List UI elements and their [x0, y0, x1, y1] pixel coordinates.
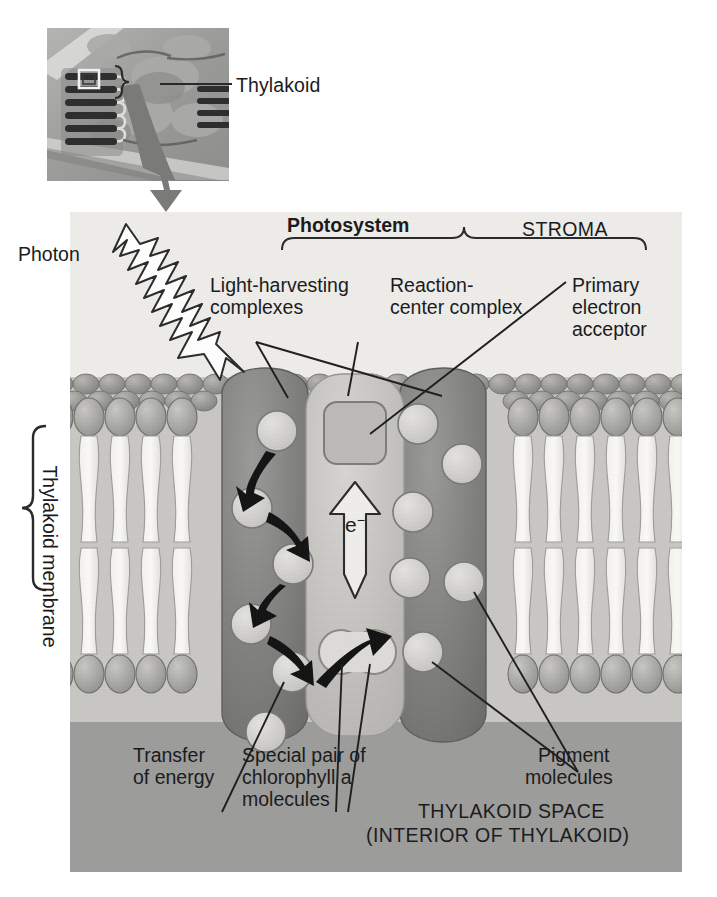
primary-acceptor-label-line2: electron — [572, 296, 641, 319]
phospholipid-tail — [606, 436, 625, 542]
phospholipid-tail — [79, 436, 98, 542]
photosystem-assembly: e− — [222, 368, 486, 752]
phospholipid-head — [539, 655, 569, 693]
phospholipid-tail — [637, 548, 656, 654]
phospholipid-tail — [141, 436, 160, 542]
phospholipid-tail — [668, 436, 682, 542]
thylakoid-space-label-line1: THYLAKOID SPACE — [418, 800, 605, 823]
special-pair-label-line3: molecules — [242, 788, 330, 811]
figure-canvas: Thylakoid Thylakoid membrane — [0, 0, 717, 897]
phospholipid-tail — [637, 436, 656, 542]
light-harvesting-label-line1: Light-harvesting — [210, 274, 349, 297]
phospholipid-head — [136, 398, 166, 436]
reaction-center-label-line1: Reaction- — [390, 274, 473, 297]
phospholipid-head — [508, 655, 538, 693]
phospholipid-tail — [575, 436, 594, 542]
transfer-energy-label-line1: Transfer — [133, 744, 205, 767]
phospholipid-head — [105, 655, 135, 693]
micrograph-image — [47, 28, 229, 181]
transfer-energy-label-line2: of energy — [133, 766, 214, 789]
pigment-molecule — [390, 558, 430, 598]
phospholipid-head — [663, 655, 682, 693]
phospholipid-head — [539, 398, 569, 436]
inset-thylakoid-label: Thylakoid — [236, 74, 320, 97]
pigment-molecule — [257, 411, 297, 451]
primary-acceptor-label-line3: acceptor — [572, 318, 647, 341]
phospholipid-tail — [544, 436, 563, 542]
thylakoid-space-label-line2: (INTERIOR OF THYLAKOID) — [366, 824, 629, 847]
special-pair-label-line2: chlorophyll a — [242, 766, 351, 789]
special-pair-label-line1: Special pair of — [242, 744, 366, 767]
photon-label: Photon — [18, 243, 80, 266]
phospholipid-head — [70, 655, 73, 693]
thylakoid-membrane-diagram: e− — [70, 212, 682, 872]
phospholipid-tail — [544, 548, 563, 654]
phospholipid-head — [601, 655, 631, 693]
highlight-square-icon — [79, 70, 99, 88]
stroma-label: STROMA — [522, 218, 608, 241]
thylakoid-brace-icon — [115, 66, 129, 98]
pigment-molecule — [393, 492, 433, 532]
phospholipid-tail — [668, 548, 682, 654]
phospholipid-head — [570, 655, 600, 693]
light-harvesting-label-line2: complexes — [210, 296, 303, 319]
thylakoid-leader-line — [160, 83, 232, 85]
phospholipid-tail — [606, 548, 625, 654]
thylakoid-membrane-label: Thylakoid membrane — [38, 452, 61, 662]
pigment-label-line2: molecules — [525, 766, 613, 789]
photosystem-label: Photosystem — [287, 214, 409, 237]
phospholipid-tail — [513, 436, 532, 542]
pigment-label-line1: Pigment — [538, 744, 610, 767]
phospholipid-head — [167, 398, 197, 436]
phospholipid-head — [570, 398, 600, 436]
primary-acceptor-label-line1: Primary — [572, 274, 639, 297]
pigment-molecule — [444, 562, 484, 602]
phospholipid-tail — [141, 548, 160, 654]
phospholipid-tail — [110, 436, 129, 542]
phospholipid-head — [508, 398, 538, 436]
phospholipid-head — [105, 398, 135, 436]
phospholipid-tail — [575, 548, 594, 654]
phospholipid-head — [632, 655, 662, 693]
phospholipid-tail — [513, 548, 532, 654]
phospholipid-head — [601, 398, 631, 436]
phospholipid-tail — [172, 548, 191, 654]
pigment-molecule — [398, 404, 438, 444]
phospholipid-head — [136, 655, 166, 693]
phospholipid-tail — [172, 436, 191, 542]
phospholipid-head — [74, 398, 104, 436]
phospholipid-head — [74, 655, 104, 693]
phospholipid-tail — [110, 548, 129, 654]
primary-electron-acceptor — [324, 402, 386, 464]
phospholipid-head — [167, 655, 197, 693]
pigment-molecule — [442, 444, 482, 484]
phospholipid-head — [632, 398, 662, 436]
phospholipid-tail — [79, 548, 98, 654]
reaction-center-label-line2: center complex — [390, 296, 522, 319]
chloroplast-micrograph-inset — [47, 28, 229, 181]
